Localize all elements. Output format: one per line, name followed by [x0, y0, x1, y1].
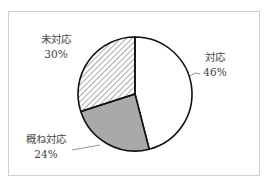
leader-line-gaone [72, 145, 100, 150]
label-mitaiou-pct: 30% [34, 47, 78, 62]
label-gaone-name: 概ね対応 [20, 132, 72, 147]
label-gaone-pct: 24% [20, 147, 72, 162]
label-taiou: 対応 46% [195, 50, 235, 80]
label-gaone: 概ね対応 24% [20, 132, 72, 162]
label-mitaiou: 未対応 30% [34, 32, 78, 62]
label-taiou-pct: 46% [195, 65, 235, 80]
label-mitaiou-name: 未対応 [34, 32, 78, 47]
label-taiou-name: 対応 [195, 50, 235, 65]
